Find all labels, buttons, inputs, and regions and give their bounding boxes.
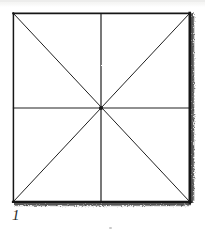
scan-speck [109,227,112,229]
square-eight-sector-diagram [0,0,205,234]
figure-number-label: 1 [12,206,20,224]
figure-page: 1 [0,0,205,234]
center-intersection-point [99,106,103,110]
geometric-figure [0,0,205,234]
